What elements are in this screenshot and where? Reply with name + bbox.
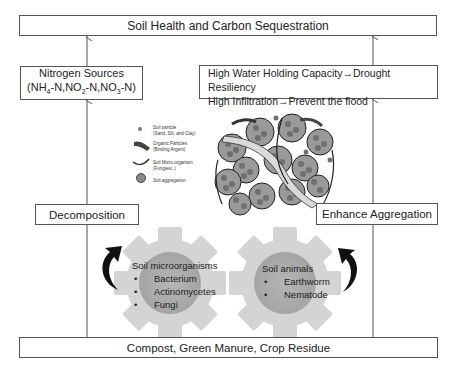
diagram-graphics	[0, 0, 453, 372]
soil-microorganisms-title: Soil microorganisms	[132, 259, 218, 272]
legend-item-organic-particles: Organic Particles(Binding Argent)	[153, 141, 196, 155]
nitrogen-sources-box: Nitrogen Sources (NH4-N,NO2-N,NO3-N)	[20, 66, 143, 100]
decomposition-box: Decomposition	[35, 204, 139, 225]
legend-item-micro-organism: Soil Micro-organism(Fungiest..)	[153, 160, 196, 174]
soil-aggregation-icon	[137, 174, 146, 183]
legend: Soil particle(Sand, Silt, and Clay) Orga…	[153, 125, 196, 184]
organic-inputs-box: Compost, Green Manure, Crop Residue	[19, 337, 438, 358]
micro-organism-icon	[133, 159, 149, 164]
soil-animals-title: Soil animals	[262, 262, 330, 275]
legend-icons	[133, 127, 150, 183]
enhance-aggregation-label: Enhance Aggregation	[322, 208, 432, 220]
soil-aggregate-illustration	[215, 114, 334, 215]
list-item: Nematode	[262, 288, 330, 301]
soil-microorganisms-text: Soil microorganisms Bacterium Actinomyce…	[132, 259, 218, 311]
legend-item-soil-aggregation: Soil aggregation	[153, 178, 196, 184]
soil-particle-icon	[138, 127, 142, 131]
list-item: Fungi	[132, 298, 218, 311]
water-holding-line: High Water Holding Capacity→Drought Resi…	[208, 66, 437, 94]
page-title: Soil Health and Carbon Sequestration	[127, 19, 328, 33]
list-item: Earthworm	[262, 275, 330, 288]
legend-item-soil-particle: Soil particle(Sand, Silt, and Clay)	[153, 125, 196, 139]
organic-inputs-label: Compost, Green Manure, Crop Residue	[127, 342, 330, 354]
nitrogen-forms: (NH4-N,NO2-N,NO3-N)	[27, 80, 136, 99]
infiltration-line: High Infiltration→Prevent the flood	[208, 94, 368, 108]
decomposition-label: Decomposition	[49, 209, 125, 221]
list-item: Bacterium	[132, 272, 218, 285]
water-holding-box: High Water Holding Capacity→Drought Resi…	[199, 65, 438, 99]
enhance-aggregation-box: Enhance Aggregation	[316, 203, 438, 225]
soil-health-box: Soil Health and Carbon Sequestration	[19, 15, 437, 36]
nitrogen-sources-label: Nitrogen Sources	[39, 66, 124, 80]
organic-particle-icon	[134, 141, 150, 151]
list-item: Actinomycetes	[132, 285, 218, 298]
soil-animals-text: Soil animals Earthworm Nematode	[262, 262, 330, 301]
